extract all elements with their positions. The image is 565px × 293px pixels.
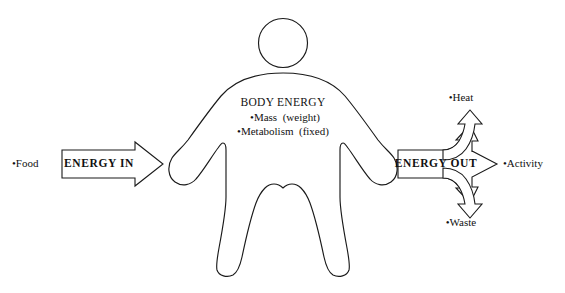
body-head-icon	[259, 19, 308, 68]
energy-out-branch-up-icon	[443, 110, 482, 160]
energy-in-label: ENERGY IN	[64, 158, 134, 170]
diagram-canvas: •Food ENERGY IN BODY ENERGY •Mass (weigh…	[0, 0, 565, 293]
body-energy-item-mass: •Mass (weight)	[250, 112, 320, 123]
output-branch-label-waste: •Waste	[446, 217, 476, 228]
body-energy-heading: BODY ENERGY	[241, 97, 326, 109]
body-energy-item-metabolism: •Metabolism (fixed)	[237, 126, 329, 137]
input-source-label: •Food	[12, 158, 38, 169]
energy-out-label: ENERGY OUT	[395, 158, 478, 170]
energy-balance-figure	[0, 0, 565, 293]
output-branch-label-activity: •Activity	[503, 158, 543, 169]
output-branch-label-heat: •Heat	[449, 92, 474, 103]
energy-out-branch-down-icon	[443, 168, 482, 218]
